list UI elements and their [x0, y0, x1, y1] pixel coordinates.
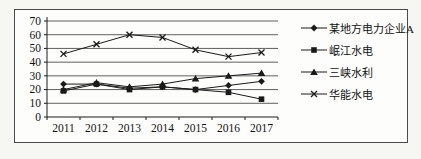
diamond-marker-icon — [258, 78, 265, 85]
y-tick-label: 70 — [30, 15, 42, 27]
x-tick-label: 2015 — [184, 122, 207, 134]
diamond-marker-icon — [311, 24, 318, 31]
legend-marker — [301, 88, 327, 100]
legend-item-1: 岷江水电 — [301, 43, 414, 56]
legend-item-2: 三峡水利 — [301, 65, 414, 78]
y-tick-label: 0 — [35, 111, 41, 123]
triangle-marker-icon — [258, 70, 266, 77]
x-tick-label: 2016 — [217, 122, 240, 134]
square-marker-icon — [259, 96, 265, 102]
chart-legend: 某地方电力企业A岷江水电三峡水利华能水电 — [301, 21, 414, 100]
x-tick-label: 2012 — [85, 122, 108, 134]
x-tick-label: 2011 — [52, 122, 75, 134]
square-marker-icon — [193, 87, 199, 93]
legend-item-0: 某地方电力企业A — [301, 21, 414, 34]
legend-marker — [301, 66, 327, 78]
x-tick-label: 2017 — [250, 122, 273, 134]
y-tick-label: 10 — [30, 97, 42, 109]
chart-frame: 0102030405060702011201220132014201520162… — [14, 9, 408, 143]
x-tick-label: 2014 — [151, 122, 174, 134]
legend-label-2: 三峡水利 — [329, 64, 373, 80]
x-marker-icon — [94, 41, 100, 47]
legend-marker — [301, 44, 327, 56]
y-tick-label: 40 — [30, 56, 42, 68]
y-tick-label: 30 — [30, 70, 42, 82]
diamond-marker-icon — [225, 82, 232, 89]
legend-label-1: 岷江水电 — [329, 42, 373, 58]
x-marker-icon — [61, 51, 67, 57]
series-3 — [61, 32, 265, 60]
y-tick-label: 20 — [30, 83, 42, 95]
legend-label-0: 某地方电力企业A — [329, 20, 414, 36]
legend-label-3: 华能水电 — [329, 86, 373, 102]
x-tick-label: 2013 — [118, 122, 141, 134]
legend-item-3: 华能水电 — [301, 87, 414, 100]
legend-marker — [301, 22, 327, 34]
square-marker-icon — [311, 47, 317, 53]
y-tick-label: 60 — [30, 29, 42, 41]
y-tick-label: 50 — [30, 42, 42, 54]
square-marker-icon — [226, 90, 232, 96]
